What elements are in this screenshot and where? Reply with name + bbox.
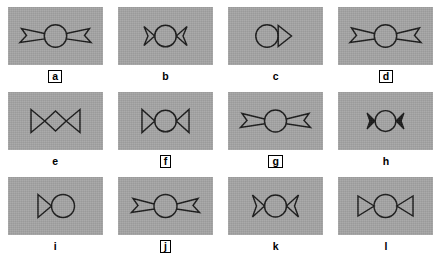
panel-label-g: g — [268, 155, 282, 168]
panel-label-f: f — [160, 155, 172, 168]
panel-label-l: l — [380, 240, 391, 253]
panel-label-i: i — [50, 240, 61, 253]
panel-image-e — [8, 92, 103, 150]
panel-cell-i: i — [0, 170, 110, 255]
symbol-circle-with-two-small-concave-darts — [228, 177, 323, 235]
panel-cell-e: e — [0, 85, 110, 170]
symbol-triangle-and-circle — [8, 177, 103, 235]
panel-cell-c: c — [221, 0, 331, 85]
panel-image-j — [118, 177, 213, 235]
panel-image-l — [338, 177, 433, 235]
symbol-circle-with-two-concave-darts-wide — [8, 7, 103, 65]
panel-image-k — [228, 177, 323, 235]
symbol-grid-figure: a b c — [0, 0, 441, 255]
panel-label-d: d — [379, 70, 393, 83]
panel-image-d — [338, 7, 433, 65]
symbol-circle-with-two-concave-darts-wide — [118, 177, 213, 235]
symbol-circle-with-two-concave-darts-wide — [228, 92, 323, 150]
symbol-circle-bowtie-straight — [338, 177, 433, 235]
panel-cell-b: b — [110, 0, 220, 85]
symbol-circle-with-two-concave-darts-wide — [338, 7, 433, 65]
panel-label-e: e — [48, 155, 62, 168]
panel-image-b — [118, 7, 213, 65]
panel-cell-g: g — [221, 85, 331, 170]
panel-label-j: j — [160, 240, 171, 253]
panel-image-i — [8, 177, 103, 235]
symbol-circle-with-two-small-filled-darts — [338, 92, 433, 150]
panel-cell-f: f — [110, 85, 220, 170]
panel-cell-d: d — [331, 0, 441, 85]
panel-cell-a: a — [0, 0, 110, 85]
panel-image-h — [338, 92, 433, 150]
panel-cell-l: l — [331, 170, 441, 255]
panel-cell-j: j — [110, 170, 220, 255]
panel-grid: a b c — [0, 0, 441, 255]
panel-image-a — [8, 7, 103, 65]
symbol-circle-bowtie-straight — [118, 92, 213, 150]
panel-cell-k: k — [221, 170, 331, 255]
symbol-circle-with-two-small-concave-darts — [118, 7, 213, 65]
panel-image-f — [118, 92, 213, 150]
panel-cell-h: h — [331, 85, 441, 170]
panel-label-k: k — [269, 240, 283, 253]
panel-image-c — [228, 7, 323, 65]
panel-label-c: c — [269, 70, 283, 83]
symbol-diamond-bowtie — [8, 92, 103, 150]
panel-label-b: b — [158, 70, 172, 83]
panel-image-g — [228, 92, 323, 150]
panel-label-a: a — [48, 70, 62, 83]
symbol-circle-with-single-right-triangle — [228, 7, 323, 65]
panel-label-h: h — [379, 155, 393, 168]
